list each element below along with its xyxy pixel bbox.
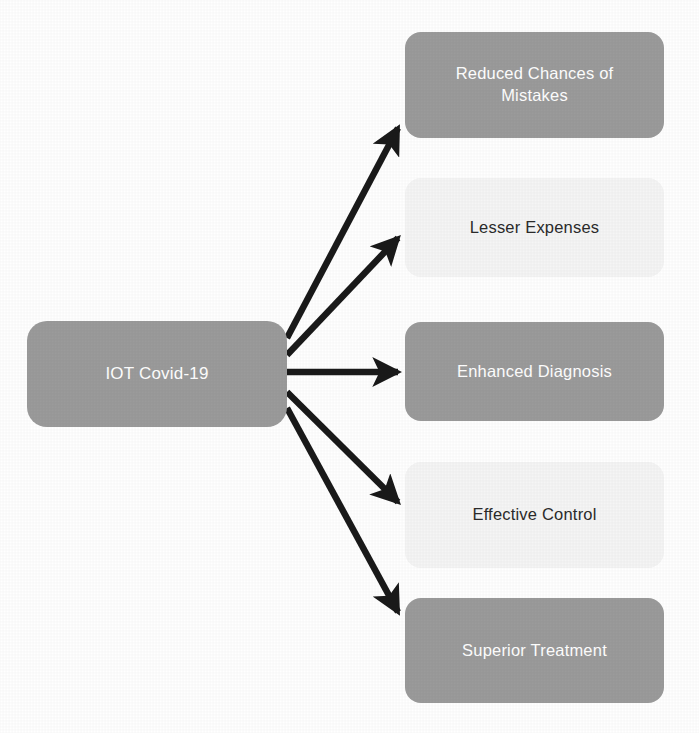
outcome-node-superior-treatment[interactable]: Superior Treatment: [405, 598, 664, 703]
outcome-node-label: Lesser Expenses: [470, 217, 600, 239]
outcome-node-enhanced-diagnosis[interactable]: Enhanced Diagnosis: [405, 322, 664, 421]
outcome-node-lesser-expenses[interactable]: Lesser Expenses: [405, 178, 664, 277]
outcome-node-label: Effective Control: [472, 504, 596, 526]
outcome-node-label: Superior Treatment: [462, 640, 607, 662]
arrow-central-to-superior-treatment: [287, 408, 398, 612]
outcome-node-effective-control[interactable]: Effective Control: [405, 462, 664, 568]
outcome-node-reduced-chances-of-mistakes[interactable]: Reduced Chances of Mistakes: [405, 32, 664, 138]
central-node-label: IOT Covid-19: [105, 363, 208, 385]
arrow-central-to-effective-control: [287, 392, 398, 502]
outcome-node-label: Enhanced Diagnosis: [457, 361, 612, 383]
central-node-iot-covid-19[interactable]: IOT Covid-19: [27, 321, 287, 427]
diagram-canvas: IOT Covid-19 Reduced Chances of Mistakes…: [0, 0, 699, 733]
outcome-node-label: Reduced Chances of Mistakes: [456, 63, 614, 107]
caption-remnant: [330, 714, 699, 728]
arrow-central-to-lesser-expenses: [287, 238, 398, 355]
arrow-central-to-reduced-chances-of-mistakes: [287, 128, 398, 338]
